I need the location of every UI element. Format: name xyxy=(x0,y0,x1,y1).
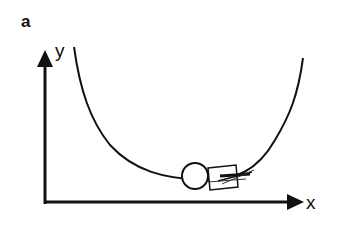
y-axis xyxy=(37,50,53,204)
diagram-canvas xyxy=(0,0,339,232)
y-axis-arrow-icon xyxy=(37,50,53,67)
x-axis xyxy=(45,194,304,210)
potential-curve xyxy=(74,47,303,180)
x-axis-arrow-icon xyxy=(287,194,304,210)
ball xyxy=(182,163,208,189)
cart xyxy=(208,165,254,190)
